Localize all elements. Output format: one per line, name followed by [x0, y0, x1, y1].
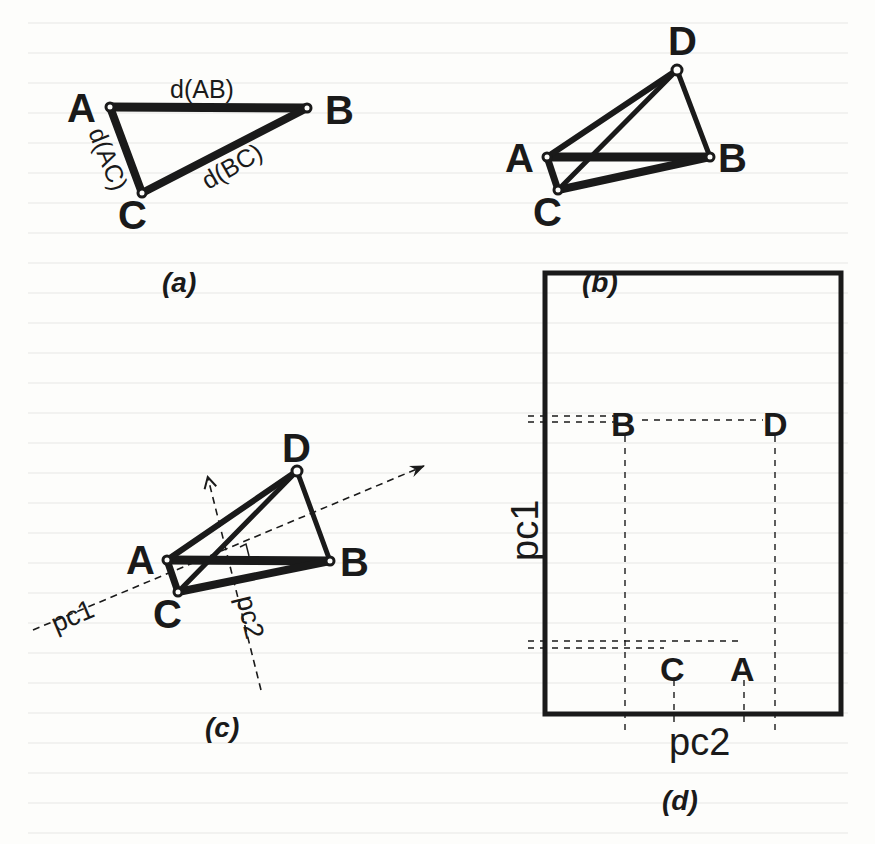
panel-b: A B C D (b) [505, 19, 747, 298]
distance-label-ab: d(AB) [170, 75, 234, 103]
edge-ab [110, 107, 307, 108]
point-label-a: A [67, 86, 96, 130]
pc1-axis-label: pc1 [47, 594, 99, 639]
point-label-d: D [763, 405, 788, 443]
panel-c: A B C D pc1 pc2 (c) [33, 426, 424, 743]
point-label-a: A [505, 136, 534, 180]
point-label-b: B [325, 88, 354, 132]
pc2-axis-label: pc2 [230, 592, 270, 642]
node-b [326, 557, 334, 565]
edge-bc [558, 157, 710, 190]
point-label-c: C [533, 190, 562, 234]
edge-ad [167, 471, 297, 560]
point-label-b: B [611, 405, 636, 443]
edge-ab [167, 560, 330, 561]
point-label-c: C [118, 193, 147, 237]
panel-d: B D C A pc1 pc2 (d) [504, 273, 841, 816]
node-b [706, 153, 714, 161]
panel-a: A B C d(AB) d(AC) d(BC) (a) [67, 75, 354, 298]
point-label-d: D [282, 426, 311, 470]
edge-ad [547, 70, 677, 157]
point-label-d: D [668, 19, 697, 63]
pc2-axis-label: pc2 [669, 721, 730, 763]
caption-a: (a) [162, 267, 196, 298]
point-label-a: A [126, 538, 155, 582]
node-a [106, 103, 114, 111]
point-label-b: B [718, 136, 747, 180]
edge-bd [677, 70, 710, 157]
point-label-c: C [660, 650, 685, 688]
caption-d: (d) [662, 785, 698, 816]
pca-distance-figure: A B C d(AB) d(AC) d(BC) (a) A B C D (b) [0, 0, 875, 844]
point-label-a: A [730, 650, 755, 688]
pc1-axis-label: pc1 [504, 500, 546, 561]
edge-bd [297, 471, 330, 561]
node-a [543, 153, 551, 161]
point-label-c: C [153, 592, 182, 636]
right-angle-mark [240, 544, 249, 556]
node-d [672, 65, 682, 75]
caption-c: (c) [205, 712, 239, 743]
node-b [303, 104, 311, 112]
point-label-b: B [340, 540, 369, 584]
node-a [163, 556, 171, 564]
